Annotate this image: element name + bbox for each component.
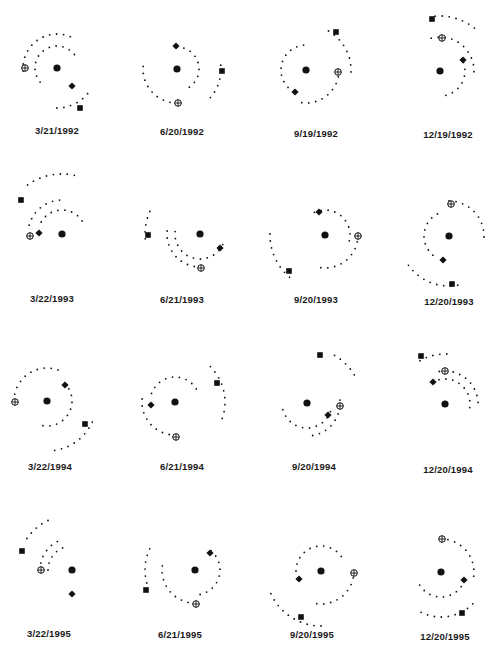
orbit-dot [469,407,471,409]
sun-icon [196,230,203,237]
orbit-dot [49,425,51,427]
orbit-dot [154,386,156,388]
orbit-dot [163,99,165,101]
orbit-dot [349,233,351,235]
orbit-panel [270,545,357,627]
orbit-dot [287,87,289,89]
orbit-dot [172,376,174,378]
orbit-dot [330,547,332,549]
orbit-dot [460,586,462,588]
orbit-dot [477,402,479,404]
orbit-dot [56,541,58,543]
orbit-dot [24,56,26,58]
orbit-dot [452,92,454,94]
orbit-dot [165,585,167,587]
orbit-dot [472,603,474,605]
orbit-dot [217,85,219,87]
orbit-dot [441,15,443,17]
orbit-dot [306,623,308,625]
orbit-dot [273,599,275,601]
diamond-marker-icon [439,256,446,263]
orbit-dot [62,420,64,422]
orbit-dot [215,555,217,557]
orbit-dot [141,398,143,400]
orbit-dot [467,393,469,395]
orbit-dot [473,568,475,570]
orbit-dot [70,105,72,107]
orbit-dot [283,81,285,83]
orbit-dot [287,614,289,616]
orbit-dot [309,427,311,429]
orbit-dot [447,616,449,618]
orbit-dot [51,556,53,558]
orbit-dot [349,57,351,59]
orbit-dot [408,264,410,266]
orbit-dot [177,244,179,246]
orbit-dot [325,429,327,431]
orbit-dot [340,556,342,558]
orbit-dot [31,218,33,220]
orbit-dot [198,69,200,71]
panel-date-label: 12/20/1994 [423,464,473,475]
orbit-dot [430,37,432,39]
panel-date-label: 9/20/1995 [290,629,334,640]
orbit-dot [280,67,282,69]
orbit-dot [337,76,339,78]
orbit-dot [276,260,278,262]
circled-plus-marker-icon [337,403,344,410]
circled-plus-marker-icon [442,368,449,375]
orbit-panel [144,211,224,272]
orbit-dot [54,450,56,452]
orbit-dot [24,375,26,377]
orbit-dot [432,355,434,357]
orbit-panel [142,42,225,106]
orbit-dot [327,94,329,96]
orbit-dot [455,18,457,20]
orbit-panel [19,520,75,598]
orbit-dot [345,220,347,222]
orbit-dot [440,616,442,618]
orbit-dot [181,250,183,252]
orbit-dot [224,404,226,406]
orbit-dot [50,367,52,369]
orbit-dot [50,212,52,214]
orbit-dot [327,267,329,269]
orbit-dot [340,263,342,265]
orbit-dot [302,427,304,429]
sun-icon [436,67,443,74]
orbit-dot [189,50,191,52]
orbit-dot [457,88,459,90]
orbit-dot [73,174,75,176]
orbit-dot [45,216,47,218]
orbit-panel [269,208,361,278]
orbit-dot [431,217,433,219]
orbit-dot [354,248,356,250]
orbit-dot [467,608,469,610]
orbit-dot [35,62,37,64]
orbit-dot [143,412,145,414]
orbit-dot [350,64,352,66]
diamond-marker-icon [460,576,467,583]
orbit-dot [289,421,291,423]
orbit-dot [43,367,45,369]
orbit-dot [218,561,220,563]
orbit-dot [48,562,50,564]
orbit-dot [314,211,316,213]
orbit-dot [191,383,193,385]
square-marker-icon [429,16,435,22]
orbit-dot [270,593,272,595]
orbit-dot [214,91,216,93]
orbit-dot [33,180,35,182]
circled-plus-marker-icon [27,233,34,240]
orbit-dot [174,231,176,233]
square-marker-icon [449,281,455,287]
sun-icon [191,566,198,573]
panel-date-label: 6/20/1992 [160,126,204,137]
orbit-dot [63,34,65,36]
orbit-dot [454,614,456,616]
square-marker-icon [19,548,25,554]
orbit-dot [449,594,451,596]
orbit-dot [468,206,470,208]
panel-date-label: 6/21/1994 [160,461,204,472]
sun-icon [317,567,324,574]
